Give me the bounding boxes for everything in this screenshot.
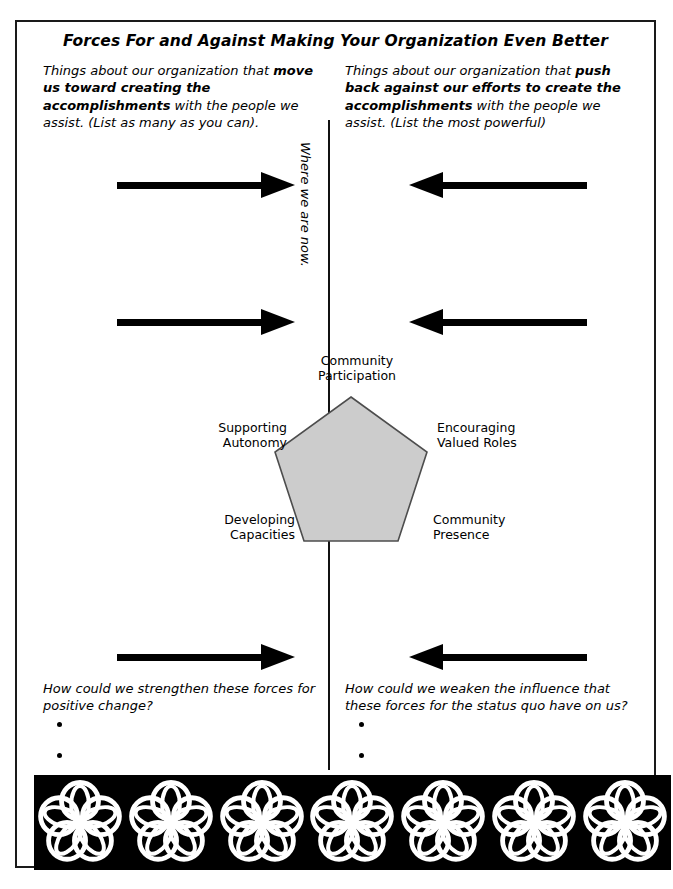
five-petal-rosette-icon xyxy=(308,777,396,869)
label-line-2: Participation xyxy=(318,368,396,383)
restraining-forces-text-1: Things about our organization that xyxy=(345,63,575,78)
page-frame: Forces For and Against Making Your Organ… xyxy=(15,20,656,868)
force-for-arrow-1 xyxy=(117,172,295,198)
pentagon-label-developing-capacities: Developing Capacities xyxy=(183,512,295,542)
list-item[interactable] xyxy=(359,722,364,727)
accomplishments-pentagon: Community Participation Encouraging Valu… xyxy=(197,352,517,557)
five-petal-rosette-icon xyxy=(127,777,215,869)
arrow-head xyxy=(261,644,295,670)
arrow-head xyxy=(409,644,443,670)
label-line-2: Valued Roles xyxy=(437,435,517,450)
where-we-are-now-label: Where we are now. xyxy=(298,142,313,282)
five-petal-rosette-icon xyxy=(399,777,487,869)
arrow-head xyxy=(409,309,443,335)
force-against-arrow-1 xyxy=(409,172,587,198)
pentagon-label-supporting-autonomy: Supporting Autonomy xyxy=(175,420,287,450)
arrow-head xyxy=(261,309,295,335)
force-for-arrow-3 xyxy=(117,644,295,670)
five-petal-rosette-icon xyxy=(36,777,124,869)
arrow-shaft xyxy=(441,319,587,326)
force-against-arrow-3 xyxy=(409,644,587,670)
label-line-2: Capacities xyxy=(230,527,295,542)
arrow-shaft xyxy=(117,319,263,326)
label-line-1: Developing xyxy=(224,512,295,527)
driving-forces-description: Things about our organization that move … xyxy=(43,62,315,131)
arrow-shaft xyxy=(441,182,587,189)
force-against-arrow-2 xyxy=(409,309,587,335)
pentagon-label-community-participation: Community Participation xyxy=(302,353,412,383)
arrow-shaft xyxy=(117,654,263,661)
arrow-shaft xyxy=(441,654,587,661)
arrow-head xyxy=(409,172,443,198)
list-item[interactable] xyxy=(359,753,364,758)
list-item[interactable] xyxy=(57,722,62,727)
five-petal-rosette-icon xyxy=(490,777,578,869)
label-line-2: Autonomy xyxy=(223,435,287,450)
label-line-1: Supporting xyxy=(218,420,287,435)
pentagon-label-encouraging-valued-roles: Encouraging Valued Roles xyxy=(437,420,549,450)
label-line-1: Community xyxy=(321,353,393,368)
label-line-1: Encouraging xyxy=(437,420,515,435)
weaken-forces-question: How could we weaken the influence that t… xyxy=(345,680,635,715)
driving-forces-text-1: Things about our organization that xyxy=(43,63,273,78)
strengthen-forces-question: How could we strengthen these forces for… xyxy=(43,680,323,715)
list-item[interactable] xyxy=(57,753,62,758)
restraining-forces-description: Things about our organization that push … xyxy=(345,62,635,131)
five-petal-rosette-icon xyxy=(581,777,669,869)
label-line-2: Presence xyxy=(433,527,490,542)
pentagon-label-community-presence: Community Presence xyxy=(433,512,545,542)
arrow-shaft xyxy=(117,182,263,189)
arrow-head xyxy=(261,172,295,198)
page-title: Forces For and Against Making Your Organ… xyxy=(17,32,654,50)
label-line-1: Community xyxy=(433,512,505,527)
five-petal-rosette-icon xyxy=(218,777,306,869)
force-for-arrow-2 xyxy=(117,309,295,335)
decorative-border-band xyxy=(34,775,671,870)
